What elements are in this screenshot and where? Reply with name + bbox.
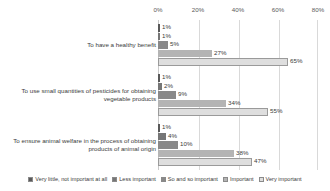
legend-item[interactable]: Very little, not important at all: [28, 176, 107, 182]
bar: [158, 133, 166, 141]
category-label: To use small quantities of pesticides fo…: [6, 87, 156, 103]
bar-row: 34%: [158, 99, 318, 108]
category-label: To have a healthy benefit: [6, 41, 156, 49]
bar-row: 38%: [158, 149, 318, 158]
legend-swatch: [161, 177, 166, 182]
bar-value-label: 65%: [288, 57, 302, 66]
bar-row: 55%: [158, 108, 318, 117]
category-label: To ensure animal welfare in the process …: [6, 137, 156, 153]
bar-value-label: 9%: [176, 90, 187, 99]
chart-legend: Very little, not important at allLess im…: [0, 176, 330, 182]
bar-row: 5%: [158, 41, 318, 50]
bar: [158, 108, 268, 116]
x-axis-tick-label: 40%: [232, 6, 244, 13]
legend-swatch: [28, 177, 33, 182]
legend-item[interactable]: So and so important: [161, 176, 218, 182]
bar-value-label: 1%: [160, 23, 171, 32]
bar-group: To have a healthy benefit1%1%5%27%65%: [0, 24, 330, 67]
bar: [158, 41, 168, 49]
bar-value-label: 2%: [162, 82, 173, 91]
category-bars: 1%2%9%34%55%: [158, 74, 318, 117]
x-axis-tick-label: 0%: [154, 6, 163, 13]
bar-row: 47%: [158, 158, 318, 167]
bar-value-label: 4%: [166, 132, 177, 141]
bar-value-label: 5%: [168, 40, 179, 49]
bar-value-label: 27%: [212, 49, 226, 58]
bar-row: 65%: [158, 58, 318, 67]
bar-value-label: 55%: [268, 107, 282, 116]
legend-swatch: [223, 177, 228, 182]
x-axis-tick-label: 20%: [192, 6, 204, 13]
legend-item[interactable]: Less important: [112, 176, 156, 182]
bar-group: To use small quantities of pesticides fo…: [0, 74, 330, 117]
legend-label: So and so important: [168, 176, 218, 182]
bar-value-label: 34%: [226, 99, 240, 108]
bar-value-label: 1%: [160, 73, 171, 82]
bar-chart: 0%20%40%60%80% To have a healthy benefit…: [0, 0, 330, 191]
bar-group: To ensure animal welfare in the process …: [0, 124, 330, 167]
bar-row: 1%: [158, 74, 318, 83]
bar: [158, 50, 212, 58]
bar-row: 1%: [158, 24, 318, 33]
bar-row: 1%: [158, 124, 318, 133]
legend-label: Less important: [119, 176, 156, 182]
category-bars: 1%1%5%27%65%: [158, 24, 318, 67]
bar-row: 1%: [158, 32, 318, 41]
bar: [158, 100, 226, 108]
bar-value-label: 38%: [234, 149, 248, 158]
legend-label: Very important: [266, 176, 302, 182]
legend-label: Very little, not important at all: [35, 176, 107, 182]
category-bars: 1%4%10%38%47%: [158, 124, 318, 167]
bar-value-label: 10%: [178, 140, 192, 149]
bar: [158, 58, 288, 66]
bar-value-label: 1%: [160, 123, 171, 132]
bar: [158, 91, 176, 99]
bar-value-label: 47%: [252, 157, 266, 166]
bar-value-label: 1%: [160, 32, 171, 41]
legend-item[interactable]: Important: [223, 176, 254, 182]
bar: [158, 150, 234, 158]
legend-item[interactable]: Very important: [259, 176, 302, 182]
x-axis: 0%20%40%60%80%: [0, 6, 330, 18]
x-axis-tick-label: 80%: [312, 6, 324, 13]
legend-swatch: [112, 177, 117, 182]
x-axis-tick-label: 60%: [272, 6, 284, 13]
bar: [158, 158, 252, 166]
bar: [158, 141, 178, 149]
legend-swatch: [259, 177, 264, 182]
legend-label: Important: [230, 176, 254, 182]
